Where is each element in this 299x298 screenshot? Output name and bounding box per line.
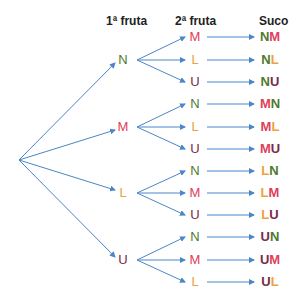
fruit-letter: M: [190, 185, 201, 200]
fruit-letter: N: [190, 229, 199, 244]
fruit-letter: U: [190, 207, 199, 222]
fruit-letter: M: [260, 96, 271, 111]
fruit-letter: M: [190, 252, 201, 267]
edge-N-U: [137, 60, 185, 82]
juice-LU: LU: [261, 208, 278, 222]
second-fruit-M: M: [190, 253, 201, 267]
second-fruit-M: M: [190, 30, 201, 44]
fruit-letter: U: [261, 274, 270, 289]
arrows: [19, 37, 254, 282]
juice-NU: NU: [261, 75, 280, 89]
fruit-letter: U: [261, 229, 270, 244]
first-fruit-N: N: [118, 53, 127, 67]
fruit-letter: L: [261, 207, 269, 222]
second-fruit-N: N: [190, 164, 199, 178]
fruit-letter: N: [269, 163, 278, 178]
second-fruit-U: U: [190, 75, 199, 89]
fruit-letter: M: [269, 252, 280, 267]
juice-UN: UN: [261, 230, 280, 244]
second-fruit-L: L: [191, 53, 198, 67]
tree-diagram: [0, 0, 299, 298]
fruit-letter: M: [269, 185, 280, 200]
fruit-letter: N: [190, 163, 199, 178]
fruit-letter: L: [271, 52, 279, 67]
fruit-letter: L: [191, 119, 198, 134]
edge-U-N: [137, 237, 185, 260]
juice-LN: LN: [261, 164, 278, 178]
fruit-letter: L: [271, 274, 279, 289]
edge-N-M: [137, 37, 185, 60]
juice-ML: ML: [261, 120, 280, 134]
fruit-letter: U: [260, 252, 269, 267]
fruit-letter: M: [269, 29, 280, 44]
fruit-letter: U: [269, 207, 278, 222]
fruit-letter: M: [118, 119, 129, 134]
juice-UL: UL: [261, 275, 278, 289]
fruit-letter: N: [260, 29, 269, 44]
fruit-letter: L: [261, 163, 269, 178]
fruit-letter: M: [260, 141, 271, 156]
fruit-letter: L: [261, 185, 269, 200]
juice-MU: MU: [260, 142, 280, 156]
fruit-letter: M: [190, 29, 201, 44]
juice-MN: MN: [260, 97, 280, 111]
edge-M-U: [137, 127, 185, 149]
second-fruit-L: L: [191, 275, 198, 289]
fruit-letter: L: [191, 52, 198, 67]
juice-LM: LM: [261, 186, 280, 200]
fruit-letter: L: [271, 119, 279, 134]
fruit-letter: U: [190, 74, 199, 89]
fruit-letter: U: [190, 141, 199, 156]
fruit-letter: U: [270, 74, 279, 89]
fruit-letter: N: [118, 52, 127, 67]
second-fruit-U: U: [190, 142, 199, 156]
second-fruit-U: U: [190, 208, 199, 222]
first-fruit-M: M: [118, 120, 129, 134]
first-fruit-U: U: [118, 253, 127, 267]
second-fruit-M: M: [190, 186, 201, 200]
fruit-letter: N: [270, 229, 279, 244]
second-fruit-N: N: [190, 97, 199, 111]
fruit-letter: M: [261, 119, 272, 134]
fruit-letter: U: [118, 252, 127, 267]
juice-NL: NL: [261, 53, 278, 67]
fruit-letter: N: [261, 74, 270, 89]
fruit-letter: N: [190, 96, 199, 111]
juice-UM: UM: [260, 253, 280, 267]
edge-L-U: [137, 193, 185, 215]
fruit-letter: N: [271, 96, 280, 111]
second-fruit-N: N: [190, 230, 199, 244]
fruit-letter: N: [261, 52, 270, 67]
fruit-letter: L: [191, 274, 198, 289]
edge-M-N: [137, 104, 185, 127]
fruit-letter: L: [119, 185, 126, 200]
edge-U-L: [137, 260, 185, 282]
second-fruit-L: L: [191, 120, 198, 134]
fruit-letter: U: [271, 141, 280, 156]
edge-L-N: [137, 171, 185, 193]
first-fruit-L: L: [119, 186, 126, 200]
juice-NM: NM: [260, 30, 280, 44]
